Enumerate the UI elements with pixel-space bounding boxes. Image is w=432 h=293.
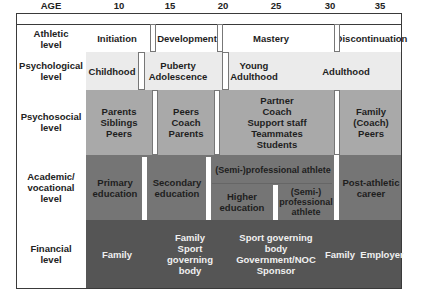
age-tick-25: 25 xyxy=(271,0,282,11)
athletic-stage-initiation: Initiation xyxy=(86,25,148,52)
athletic-stage-development: Development xyxy=(156,25,218,52)
academic-stage-primary: Primary education xyxy=(86,155,144,220)
transition-marker xyxy=(206,157,211,220)
transition-marker xyxy=(273,185,278,220)
financial-stage-family-sport: Family Sport governing body xyxy=(160,220,220,288)
age-tick-35: 35 xyxy=(375,0,386,11)
transition-marker xyxy=(214,90,220,155)
transition-marker xyxy=(334,155,339,220)
row-label-financial: Financial level xyxy=(16,220,86,288)
psychosocial-stage-4: Family (Coach) Peers xyxy=(340,90,402,155)
transition-marker xyxy=(138,52,145,90)
academic-stage-semipro-top: (Semi-)professional athlete xyxy=(212,157,334,183)
row-label-academic: Academic/ vocational level xyxy=(16,155,86,220)
psychosocial-stage-2: Peers Coach Parents xyxy=(158,90,214,155)
age-tick-20: 20 xyxy=(218,0,229,11)
transition-marker xyxy=(152,90,158,155)
psychological-stage-puberty: Puberty Adolescence xyxy=(145,52,211,90)
age-header-label: AGE xyxy=(41,0,62,11)
transition-marker xyxy=(217,24,223,52)
psychological-stage-childhood: Childhood xyxy=(86,52,138,90)
financial-stage-employer: Employer xyxy=(362,220,402,288)
row-label-psychological: Psychological level xyxy=(16,52,86,90)
transition-marker xyxy=(142,157,147,220)
psychosocial-stage-1: Parents Siblings Peers xyxy=(86,90,152,155)
age-tick-15: 15 xyxy=(165,0,176,11)
transition-marker xyxy=(222,52,229,90)
athletic-stage-mastery: Mastery xyxy=(224,25,318,52)
academic-stage-post-athletic: Post-athletic career xyxy=(340,155,402,220)
row-label-psychosocial: Psychosocial level xyxy=(16,90,86,154)
academic-stage-secondary: Secondary education xyxy=(149,155,205,220)
psychosocial-stage-3: Partner Coach Support staff Teammates St… xyxy=(221,90,333,155)
age-tick-30: 30 xyxy=(325,0,336,11)
age-tick-10: 10 xyxy=(114,0,125,11)
psychological-stage-young-adulthood: Young Adulthood xyxy=(229,52,279,90)
transition-marker xyxy=(334,90,340,155)
age-header-row xyxy=(16,13,402,25)
psychological-stage-adulthood: Adulthood xyxy=(290,52,402,90)
financial-stage-family-late: Family xyxy=(320,220,360,288)
athletic-stage-discontinuation: Discontinuation xyxy=(341,25,402,52)
academic-stage-higher-education: Higher education xyxy=(212,184,272,220)
transition-marker xyxy=(150,24,156,52)
transition-marker xyxy=(334,24,340,52)
row-label-athletic: Athletic level xyxy=(16,25,86,52)
financial-stage-sport-gov-sponsor: Sport governing body Government/NOC Spon… xyxy=(226,220,326,288)
academic-stage-semipro-bottom: (Semi-) professional athlete xyxy=(278,184,334,220)
financial-stage-family: Family xyxy=(86,220,148,288)
